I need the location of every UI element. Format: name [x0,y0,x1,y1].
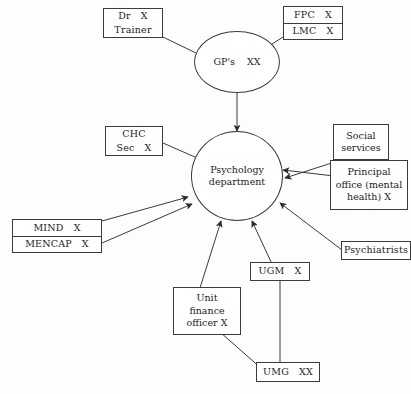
node-dr-trainer-mark1: X [131,10,148,22]
connector-mind-to-psychology [102,197,188,221]
node-umg-row: UMG XX [257,365,319,379]
node-mind-mencap[interactable]: MIND X MENCAP X [12,219,102,253]
node-fpc-mark: X [315,9,332,21]
node-ugm-mark: X [284,265,301,277]
node-fpc-label: FPC [294,9,315,21]
diagram-canvas: Dr X Trainer FPC X LMC X GP's XX CHC Sec… [0,0,411,394]
node-mind-mark: X [64,222,81,234]
node-principal-office-label1: Principal [347,166,390,178]
node-chc[interactable]: CHC Sec X [105,126,163,156]
node-social-services[interactable]: Social services [333,124,389,160]
node-umg-mark: XX [289,366,313,378]
node-chc-line2: Sec X [106,141,162,155]
node-gps-mark: XX [238,56,261,67]
node-gps-line: GP's XX [213,56,260,68]
node-gps-label: GP's [213,56,234,67]
node-psychiatrists-label: Psychiatrists [344,244,408,256]
node-chc-line1: CHC [106,127,162,141]
node-unit-finance-officer-mark: X [221,317,228,328]
node-mind-row: MIND X [13,221,101,236]
connector-unit-finance-officer-to-psychology [200,221,221,288]
node-principal-office-line3: health) X [347,191,391,203]
node-dr-trainer-label2: Trainer [114,24,151,36]
node-umg[interactable]: UMG XX [256,362,320,382]
node-mencap-label: MENCAP [25,238,72,250]
connector-dr-trainer-to-gps [163,37,196,53]
connector-mencap-to-psychology [102,204,192,243]
node-unit-finance-officer-label1: Unit [197,292,218,304]
node-lmc-label: LMC [293,25,317,37]
node-unit-finance-officer-label3: officer [187,317,218,328]
node-principal-office-label3: health) [347,191,381,202]
node-ugm-row: UGM X [251,264,309,278]
node-unit-finance-officer[interactable]: Unit finance officer X [173,287,241,335]
node-psychology-label1: Psychology [210,164,264,176]
node-principal-office[interactable]: Principal office (mental health) X [330,160,408,210]
node-social-services-label1: Social [346,130,375,142]
node-dr-trainer-label1: Dr [118,10,131,22]
node-chc-mark: X [135,142,152,154]
node-chc-label1: CHC [122,128,145,140]
node-ugm[interactable]: UGM X [250,262,310,281]
node-lmc-row: LMC X [284,24,342,38]
node-psychology-department[interactable]: Psychology department [191,131,283,221]
node-unit-finance-officer-line3: officer X [187,317,228,329]
connector-psychiatrists-to-psychology [280,203,342,250]
node-dr-trainer-line2: Trainer [104,23,162,37]
node-mencap-row: MENCAP X [13,237,101,251]
node-psychiatrists[interactable]: Psychiatrists [341,241,411,260]
node-umg-label: UMG [263,366,289,378]
connector-ugm-to-psychology [252,221,272,264]
node-mind-label: MIND [33,222,63,234]
node-unit-finance-officer-label2: finance [189,305,224,317]
node-principal-office-label2: office (mental [336,179,402,191]
node-chc-label2: Sec [116,142,134,154]
node-ugm-label: UGM [259,265,285,277]
node-social-services-label2: services [341,142,380,154]
node-principal-office-mark: X [384,191,391,202]
node-dr-trainer[interactable]: Dr X Trainer [103,8,163,38]
node-gps[interactable]: GP's XX [194,31,280,93]
node-lmc-mark: X [316,25,333,37]
node-fpc-lmc[interactable]: FPC X LMC X [283,6,343,40]
node-psychology-label2: department [209,176,265,188]
node-psychiatrists-row: Psychiatrists [342,243,410,257]
node-dr-trainer-line1: Dr X [104,9,162,23]
node-fpc-row: FPC X [284,8,342,23]
node-mencap-mark: X [72,238,89,250]
